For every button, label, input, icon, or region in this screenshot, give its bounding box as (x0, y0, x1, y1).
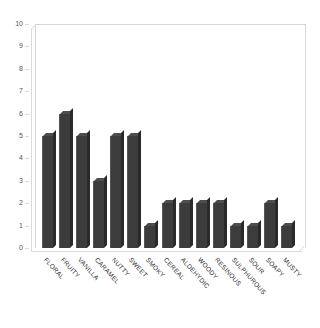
y-axis-tick-label: 3 (19, 176, 23, 186)
bar (162, 203, 173, 248)
bar-column (76, 136, 90, 248)
bar-side-face (87, 130, 90, 248)
y-axis-tick-mark (25, 226, 29, 227)
bar (281, 226, 292, 248)
y-axis-tick-mark (25, 158, 29, 159)
bar (59, 114, 70, 248)
bar-column (93, 181, 107, 248)
x-axis-labels: FLORALFRUITYVANILLACARAMELNUTTYSWEETSMOK… (31, 256, 306, 328)
bar-column (230, 226, 244, 248)
bar-side-face (190, 197, 193, 248)
y-axis-tick-mark (25, 136, 29, 137)
bar (264, 203, 275, 248)
bar-side-face (104, 175, 107, 248)
bar-side-face (70, 108, 73, 248)
bar (42, 136, 53, 248)
bar (93, 181, 104, 248)
bar-side-face (292, 220, 295, 248)
bar-column (59, 114, 73, 248)
bar (144, 226, 155, 248)
y-axis-tick-mark (25, 248, 29, 249)
y-axis-tick-label: 9 (19, 41, 23, 51)
bar-column (247, 226, 261, 248)
bar-column (162, 203, 176, 248)
bar-side-face (173, 197, 176, 248)
y-axis-tick-label: 7 (19, 86, 23, 96)
y-axis-tick-label: 10 (15, 19, 23, 29)
x-axis-label: MUSTY (282, 256, 303, 278)
y-axis-tick-label: 0 (19, 243, 23, 253)
y-axis-tick-mark (25, 114, 29, 115)
bar (127, 136, 138, 248)
bar-chart: 012345678910 FLORALFRUITYVANILLACARAMELN… (0, 0, 320, 328)
bar-column (179, 203, 193, 248)
y-axis-tick-label: 4 (19, 153, 23, 163)
bar-side-face (275, 197, 278, 248)
bar (247, 226, 258, 248)
bar-column (110, 136, 124, 248)
y-axis-tick-label: 1 (19, 221, 23, 231)
bar (76, 136, 87, 248)
bar-side-face (224, 197, 227, 248)
y-axis-tick-mark (25, 24, 29, 25)
bar-side-face (53, 130, 56, 248)
bar (196, 203, 207, 248)
bar-column (196, 203, 210, 248)
bar-side-face (241, 220, 244, 248)
bar-side-face (207, 197, 210, 248)
y-axis: 012345678910 (0, 18, 32, 258)
y-axis-tick-mark (25, 181, 29, 182)
y-axis-tick-label: 6 (19, 109, 23, 119)
y-axis-tick-mark (25, 46, 29, 47)
bar-side-face (258, 220, 261, 248)
bar (230, 226, 241, 248)
bar-column (144, 226, 158, 248)
bar-side-face (121, 130, 124, 248)
bar (213, 203, 224, 248)
bar-side-face (138, 130, 141, 248)
y-axis-tick-label: 8 (19, 64, 23, 74)
bar (110, 136, 121, 248)
bar-column (264, 203, 278, 248)
bar-column (213, 203, 227, 248)
bar-column (42, 136, 56, 248)
bar-column (127, 136, 141, 248)
y-axis-tick-label: 5 (19, 131, 23, 141)
bar-side-face (155, 220, 158, 248)
y-axis-tick-mark (25, 69, 29, 70)
bar-series (31, 24, 306, 252)
bar (179, 203, 190, 248)
y-axis-tick-label: 2 (19, 198, 23, 208)
y-axis-tick-mark (25, 91, 29, 92)
bar-column (281, 226, 295, 248)
y-axis-tick-mark (25, 203, 29, 204)
